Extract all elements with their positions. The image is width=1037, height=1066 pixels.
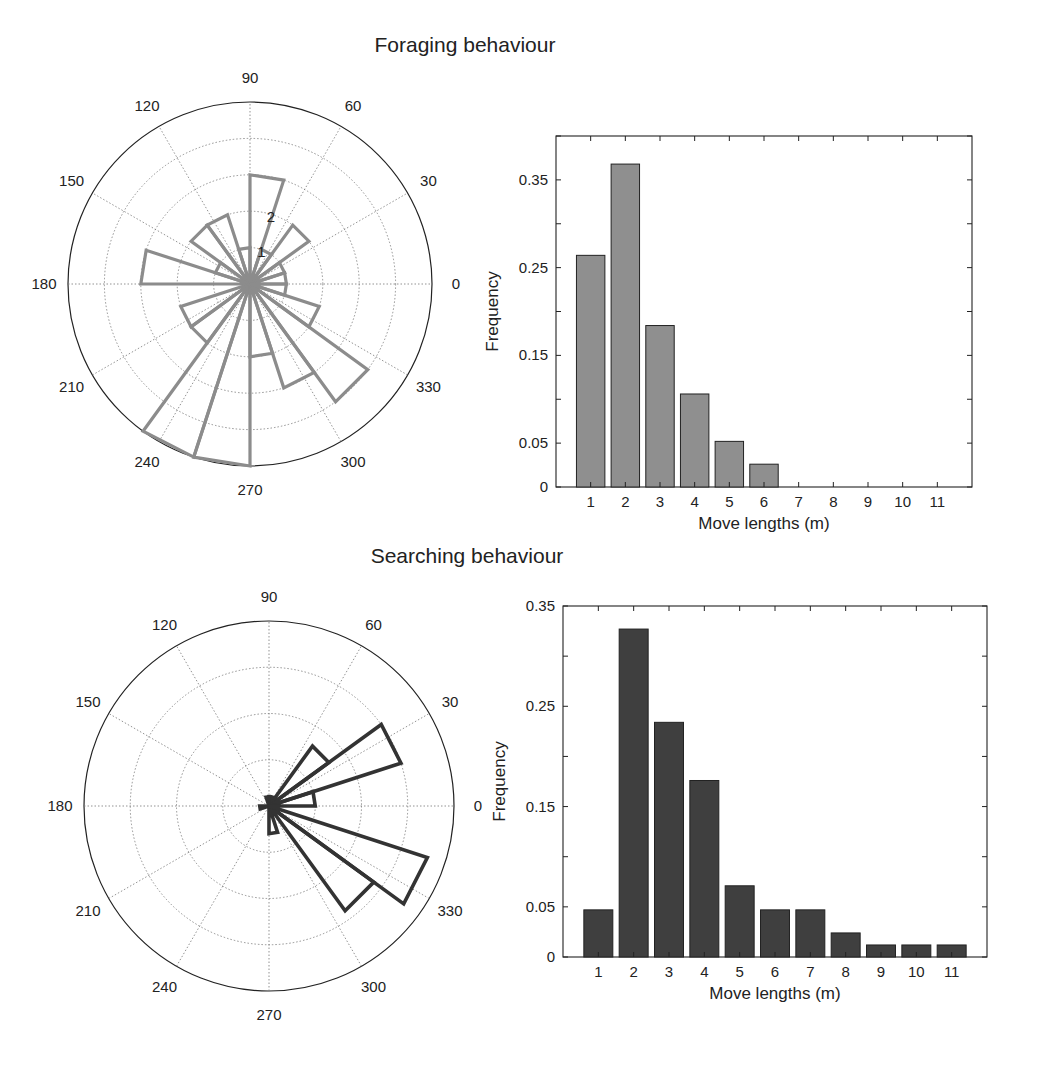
x-tick-label: 6 — [771, 963, 779, 980]
polar-angle-label: 90 — [242, 69, 259, 86]
histogram-bar — [690, 780, 719, 957]
x-tick-label: 6 — [760, 493, 768, 510]
searching-rose-plot: 0306090120150180210240270300330 — [47, 588, 482, 1023]
y-axis-label: Frequency — [490, 741, 509, 822]
polar-radial-label: 1 — [257, 243, 265, 260]
x-tick-label: 5 — [735, 963, 743, 980]
y-tick-label: 0.25 — [519, 259, 548, 276]
x-tick-label: 7 — [794, 493, 802, 510]
y-tick-label: 0.25 — [526, 697, 555, 714]
polar-angle-label: 0 — [474, 797, 482, 814]
x-tick-label: 4 — [700, 963, 708, 980]
polar-angle-label: 60 — [345, 97, 362, 114]
y-tick-label: 0.15 — [526, 798, 555, 815]
polar-angle-label: 90 — [261, 588, 278, 605]
polar-angle-label: 120 — [134, 97, 159, 114]
polar-angle-label: 330 — [437, 902, 462, 919]
y-tick-label: 0.15 — [519, 346, 548, 363]
histogram-bar — [619, 629, 648, 957]
rose-wedge — [141, 250, 250, 284]
histogram-bar — [576, 255, 604, 487]
polar-angle-label: 300 — [340, 453, 365, 470]
x-tick-label: 9 — [864, 493, 872, 510]
histogram-bar — [796, 910, 825, 957]
searching-title: Searching behaviour — [371, 544, 564, 567]
polar-angle-label: 180 — [31, 275, 56, 292]
x-tick-label: 8 — [829, 493, 837, 510]
polar-angle-label: 330 — [416, 378, 441, 395]
x-tick-label: 4 — [690, 493, 698, 510]
polar-radial-label: 2 — [267, 208, 275, 225]
foraging-rose-plot: 030609012015018021024027030033012 — [31, 69, 460, 498]
x-tick-label: 10 — [908, 963, 925, 980]
histogram-bar — [761, 910, 790, 957]
y-tick-label: 0 — [540, 478, 548, 495]
y-tick-label: 0.35 — [526, 597, 555, 614]
x-tick-label: 8 — [841, 963, 849, 980]
polar-angle-label: 150 — [59, 172, 84, 189]
x-tick-label: 1 — [586, 493, 594, 510]
y-tick-label: 0.05 — [526, 898, 555, 915]
histogram-bar — [584, 910, 613, 957]
x-tick-label: 9 — [877, 963, 885, 980]
x-axis-label: Move lengths (m) — [709, 984, 840, 1003]
x-tick-label: 11 — [944, 963, 960, 980]
polar-angle-label: 30 — [420, 172, 437, 189]
polar-angle-label: 240 — [152, 978, 177, 995]
histogram-bar — [715, 441, 743, 487]
x-tick-label: 2 — [621, 493, 629, 510]
polar-angle-label: 60 — [365, 616, 382, 633]
foraging-title: Foraging behaviour — [375, 33, 556, 56]
polar-angle-label: 120 — [152, 616, 177, 633]
histogram-bar — [725, 886, 754, 957]
y-tick-label: 0.05 — [519, 434, 548, 451]
polar-angle-label: 210 — [75, 902, 100, 919]
histogram-bar — [655, 722, 684, 957]
x-tick-label: 2 — [629, 963, 637, 980]
rose-wedge — [269, 806, 427, 904]
figure: Foraging behaviour Searching behaviour 0… — [0, 0, 1037, 1066]
polar-angle-label: 240 — [134, 453, 159, 470]
polar-angle-label: 150 — [75, 693, 100, 710]
x-tick-label: 11 — [930, 493, 946, 510]
rose-wedge — [143, 284, 250, 457]
histogram-bar — [646, 326, 674, 487]
polar-angle-label: 210 — [59, 378, 84, 395]
y-tick-label: 0.35 — [519, 171, 548, 188]
histogram-bar — [611, 164, 639, 487]
rose-wedge — [250, 175, 284, 284]
y-tick-label: 0 — [547, 948, 555, 965]
polar-angle-label: 270 — [256, 1006, 281, 1023]
y-axis-label: Frequency — [483, 271, 502, 352]
polar-angle-label: 180 — [47, 797, 72, 814]
searching-move-length-histogram: 00.050.150.250.351234567891011Move lengt… — [490, 597, 987, 1003]
x-tick-label: 1 — [594, 963, 602, 980]
polar-angle-label: 30 — [442, 693, 459, 710]
x-tick-label: 3 — [665, 963, 673, 980]
x-tick-label: 3 — [656, 493, 664, 510]
x-axis-label: Move lengths (m) — [698, 514, 829, 533]
polar-angle-label: 0 — [452, 275, 460, 292]
x-tick-label: 10 — [894, 493, 911, 510]
polar-angle-label: 270 — [237, 481, 262, 498]
polar-angle-label: 300 — [361, 978, 386, 995]
x-tick-label: 5 — [725, 493, 733, 510]
histogram-bar — [680, 394, 708, 487]
foraging-move-length-histogram: 00.050.150.250.351234567891011Move lengt… — [483, 136, 972, 533]
x-tick-label: 7 — [806, 963, 814, 980]
